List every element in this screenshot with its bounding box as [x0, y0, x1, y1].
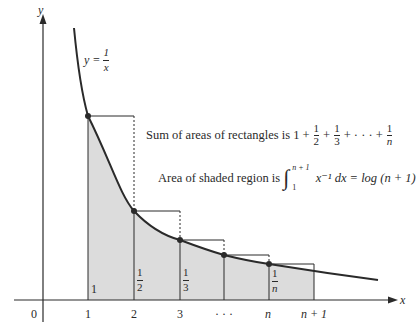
tick-n: n [265, 308, 271, 320]
x-axis-arrow-icon [388, 297, 398, 304]
curve-label: y = 1 x [84, 47, 109, 73]
rect-label-third: 13 [183, 267, 189, 293]
caption-sum: Sum of areas of rectangles is 1 + 12 + 1… [146, 123, 394, 147]
caption-area: Area of shaded region is ∫ n + 1 1 x⁻¹ d… [158, 164, 416, 192]
rect-label-half: 12 [137, 267, 143, 293]
origin-label: 0 [31, 308, 37, 320]
tick-3: 3 [177, 308, 183, 320]
tick-ellipsis: · · · [215, 308, 233, 320]
integral-sign: ∫ [283, 165, 289, 191]
rect-label-1-over-n: 1n [272, 268, 278, 294]
tick-1: 1 [85, 308, 91, 320]
rect-label-1: 1 [91, 283, 97, 295]
y-axis-label: y [38, 4, 43, 16]
x-axis-label: x [400, 294, 405, 306]
tick-2: 2 [131, 308, 137, 320]
tick-n-plus-1: n + 1 [301, 308, 327, 320]
